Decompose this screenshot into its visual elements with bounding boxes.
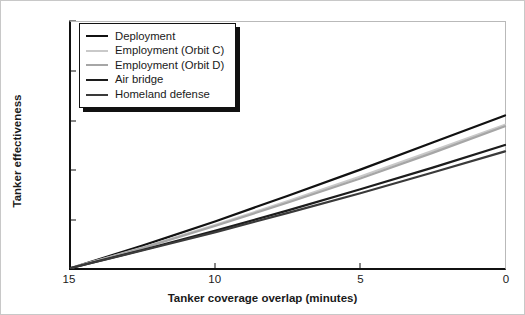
legend-label: Air bridge — [115, 74, 163, 85]
legend-item[interactable]: Employment (Orbit C) — [86, 44, 228, 59]
x-tick-label: 0 — [503, 273, 509, 285]
legend-label: Homeland defense — [115, 89, 210, 100]
legend-swatch-icon — [86, 50, 108, 52]
legend-item[interactable]: Homeland defense — [86, 87, 228, 102]
legend-label: Deployment — [115, 31, 175, 42]
x-axis-title: Tanker coverage overlap (minutes) — [1, 292, 524, 304]
legend-item[interactable]: Air bridge — [86, 73, 228, 88]
chart-legend: DeploymentEmployment (Orbit C)Employment… — [79, 23, 236, 108]
legend-swatch-icon — [86, 94, 108, 96]
legend-swatch-icon — [86, 35, 108, 37]
legend-item[interactable]: Deployment — [86, 29, 228, 44]
x-tick-label: 10 — [208, 273, 221, 285]
x-tick-label: 5 — [357, 273, 363, 285]
legend-swatch-icon — [86, 64, 108, 66]
chart-figure: Tanker effectiveness 1.001.011.021.031.0… — [0, 0, 525, 315]
legend-item[interactable]: Employment (Orbit D) — [86, 58, 228, 73]
legend-label: Employment (Orbit D) — [115, 60, 224, 71]
y-axis-title: Tanker effectiveness — [11, 51, 23, 251]
legend-swatch-icon — [86, 79, 108, 81]
x-tick-mark — [360, 263, 361, 270]
legend-label: Employment (Orbit C) — [115, 45, 224, 56]
x-tick-mark — [214, 263, 215, 270]
x-tick-label: 15 — [63, 273, 76, 285]
series-line — [71, 115, 505, 268]
